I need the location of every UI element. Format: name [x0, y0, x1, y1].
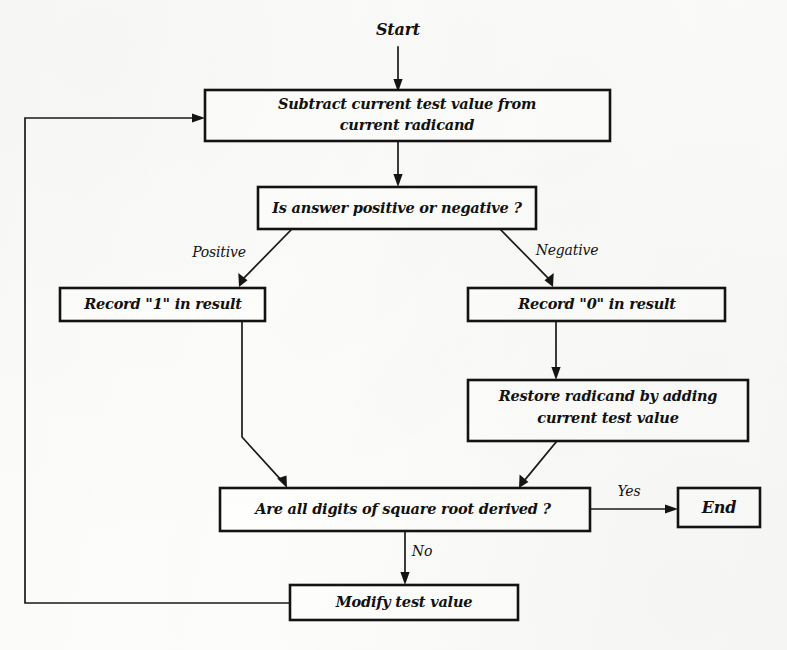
arrowhead-subtract-to-decision-sign — [393, 174, 402, 187]
node-start-label: Start — [376, 20, 421, 39]
edge-record-one-to-decision-digits — [242, 321, 282, 481]
node-record-zero-label: Record "0" in result — [517, 295, 676, 312]
node-subtract-label-line2: current radicand — [340, 116, 475, 133]
edge-decision-sign-to-record-one — [243, 229, 292, 279]
node-modify-label: Modify test value — [335, 593, 473, 610]
arrowhead-record-zero-to-restore — [551, 367, 560, 380]
node-decision-sign-label: Is answer positive or negative ? — [271, 199, 522, 216]
arrowhead-modify-to-subtract-loop — [192, 113, 205, 122]
node-end-label: End — [701, 498, 736, 517]
edge-label-yes: Yes — [618, 483, 641, 499]
edge-restore-to-decision-digits — [524, 441, 557, 481]
flowchart-canvas: Start Subtract current test value from c… — [0, 0, 787, 650]
arrowhead-decision-digits-to-modify — [400, 572, 409, 585]
node-subtract-label-line1: Subtract current test value from — [278, 95, 536, 112]
node-decision-digits-label: Are all digits of square root derived ? — [253, 500, 551, 517]
flowchart-page: Start Subtract current test value from c… — [0, 0, 787, 650]
node-restore-label-line2: current test value — [537, 409, 679, 426]
arrowhead-decision-digits-to-end — [665, 504, 678, 513]
node-restore-label-line1: Restore radicand by adding — [498, 387, 718, 404]
edge-label-no: No — [411, 543, 432, 559]
edge-label-negative: Negative — [535, 242, 599, 258]
node-record-one-label: Record "1" in result — [83, 295, 242, 312]
edge-label-positive: Positive — [191, 244, 246, 260]
